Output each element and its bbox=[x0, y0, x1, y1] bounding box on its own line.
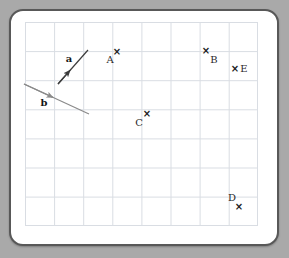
point-marker-b: × bbox=[202, 46, 210, 56]
point-marker-e: × bbox=[231, 64, 239, 74]
point-label-a: A bbox=[106, 55, 113, 65]
point-label-d: D bbox=[228, 193, 236, 203]
vector-label-b: b bbox=[41, 98, 48, 108]
figure-stage: a b × A × B × E × C × D bbox=[0, 0, 289, 258]
point-label-e: E bbox=[240, 64, 247, 74]
point-marker-d: × bbox=[235, 202, 243, 212]
vector-label-a: a bbox=[66, 54, 72, 64]
point-label-b: B bbox=[210, 55, 217, 65]
point-marker-c: × bbox=[143, 109, 151, 119]
point-label-c: C bbox=[135, 118, 143, 128]
point-marker-a: × bbox=[113, 47, 121, 57]
